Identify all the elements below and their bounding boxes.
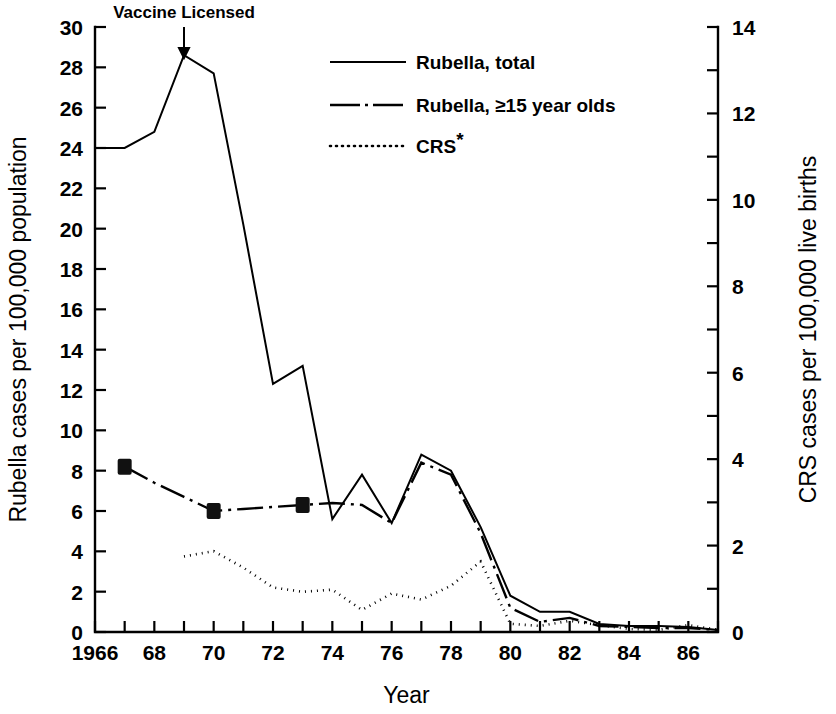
y-right-axis-title: CRS cases per 100,000 live births	[795, 156, 821, 504]
x-axis-title: Year	[383, 682, 430, 708]
chart-figure: 1966687072747678808284860246810121416182…	[0, 0, 836, 714]
y-right-tick-label: 4	[732, 448, 744, 471]
x-tick-label: 74	[321, 641, 345, 664]
y-left-tick-label: 8	[71, 460, 83, 483]
x-tick-label: 82	[558, 641, 581, 664]
legend-superscript-asterisk: *	[456, 129, 464, 150]
x-tick-label: 72	[261, 641, 284, 664]
y-left-tick-label: 28	[60, 56, 84, 79]
series-line-rubella_15plus	[125, 463, 718, 630]
x-tick-label: 78	[439, 641, 463, 664]
x-tick-label: 1966	[72, 641, 119, 664]
axis-spines	[95, 27, 718, 632]
legend-layer: Rubella, totalRubella, ≥15 year oldsCRS*	[330, 52, 615, 157]
x-tick-label: 76	[380, 641, 403, 664]
x-tick-label: 86	[677, 641, 700, 664]
y-left-tick-label: 4	[71, 540, 83, 563]
y-left-tick-label: 22	[60, 177, 83, 200]
survey-marker-square	[296, 497, 310, 513]
survey-marker-square	[118, 459, 132, 475]
series-line-crs	[184, 551, 718, 630]
rubella-crs-chart: 1966687072747678808284860246810121416182…	[0, 0, 836, 714]
vaccine-licensed-label: Vaccine Licensed	[113, 3, 255, 22]
y-right-tick-label: 10	[732, 189, 755, 212]
y-right-tick-label: 6	[732, 362, 744, 385]
x-tick-label: 68	[143, 641, 167, 664]
y-left-tick-label: 18	[60, 258, 84, 281]
y-right-tick-label: 2	[732, 535, 744, 558]
y-right-tick-label: 0	[732, 621, 744, 644]
legend-label-rubella_15plus: Rubella, ≥15 year olds	[416, 95, 615, 116]
x-tick-label: 84	[617, 641, 641, 664]
y-right-tick-label: 14	[732, 16, 756, 39]
x-tick-label: 70	[202, 641, 225, 664]
legend-label-crs: CRS*	[416, 129, 464, 157]
series-line-rubella_total	[95, 55, 718, 630]
x-tick-label: 80	[499, 641, 522, 664]
annotation-layer: Vaccine Licensed	[113, 3, 255, 58]
y-left-tick-label: 24	[60, 137, 84, 160]
y-right-tick-label: 12	[732, 102, 755, 125]
y-left-tick-label: 10	[60, 419, 83, 442]
y-left-tick-label: 16	[60, 298, 83, 321]
y-left-tick-label: 12	[60, 379, 83, 402]
series-layer	[95, 55, 718, 630]
legend-label-rubella_total: Rubella, total	[416, 52, 535, 73]
survey-marker-square	[207, 503, 221, 519]
y-left-tick-label: 2	[71, 581, 83, 604]
labels-layer: YearRubella cases per 100,000 population…	[5, 136, 821, 708]
y-left-tick-label: 6	[71, 500, 83, 523]
markers-layer	[118, 459, 310, 519]
y-left-tick-label: 26	[60, 97, 83, 120]
y-left-tick-label: 20	[60, 218, 83, 241]
y-left-tick-label: 30	[60, 16, 83, 39]
y-left-tick-label: 0	[71, 621, 83, 644]
y-right-tick-label: 8	[732, 275, 744, 298]
y-left-tick-label: 14	[60, 339, 84, 362]
y-left-axis-title: Rubella cases per 100,000 population	[5, 136, 31, 522]
axes-layer: 1966687072747678808284860246810121416182…	[60, 16, 756, 664]
